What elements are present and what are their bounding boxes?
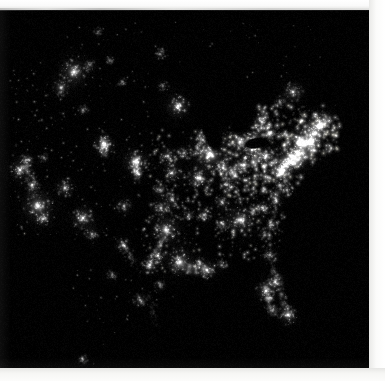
scan-border-top (0, 0, 385, 10)
night-lights-canvas (0, 10, 369, 368)
scan-border-bottom (0, 368, 385, 381)
screenshot-root (0, 0, 385, 381)
scan-border-right (369, 0, 385, 381)
satellite-night-lights-image (0, 10, 369, 368)
